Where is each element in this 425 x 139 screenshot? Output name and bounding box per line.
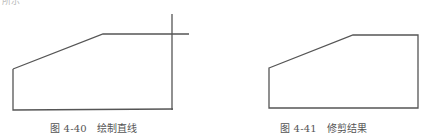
caption-number: 图 4-41 bbox=[280, 123, 317, 134]
caption-title: 修剪结果 bbox=[327, 123, 368, 134]
figure-4-41-caption: 图 4-41修剪结果 bbox=[280, 120, 368, 135]
figure-4-41-drawing bbox=[269, 35, 418, 108]
figures-canvas bbox=[0, 0, 425, 139]
left-and-bottom-outline bbox=[13, 69, 173, 110]
slanted-and-horizontal-line bbox=[13, 34, 189, 69]
figure-4-40-drawing bbox=[13, 14, 189, 110]
figure-4-40-caption: 图 4-40绘制直线 bbox=[50, 120, 138, 135]
caption-title: 绘制直线 bbox=[97, 123, 138, 134]
trimmed-shape-outline bbox=[269, 35, 418, 108]
caption-number: 图 4-40 bbox=[50, 123, 87, 134]
